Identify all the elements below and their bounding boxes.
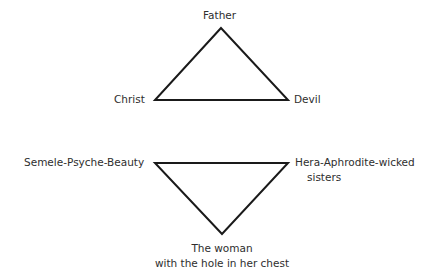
label-devil: Devil — [294, 93, 321, 106]
label-hera-aphrodite-wicked: Hera-Aphrodite-wicked — [295, 156, 415, 169]
label-the-woman: The woman with the hole in her chest — [152, 242, 292, 270]
triangles-diagram — [0, 0, 438, 277]
label-the-woman-line2: with the hole in her chest — [152, 257, 292, 270]
lower-triangle — [155, 163, 288, 234]
label-sisters: sisters — [307, 171, 341, 184]
label-christ: Christ — [114, 93, 145, 106]
upper-triangle — [155, 28, 288, 100]
label-the-woman-line1: The woman — [152, 242, 292, 255]
label-semele-psyche-beauty: Semele-Psyche-Beauty — [24, 156, 144, 169]
label-father: Father — [203, 9, 236, 22]
